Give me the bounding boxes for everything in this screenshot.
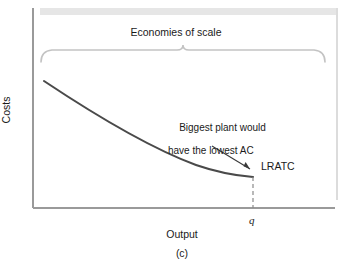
economies-of-scale-label: Economies of scale xyxy=(0,26,352,38)
x-axis-label: Output xyxy=(120,228,244,240)
x-axis-marker-q: q xyxy=(249,214,255,227)
y-axis-label: Costs xyxy=(0,88,12,132)
annotation-line-1: Biggest plant would xyxy=(179,122,266,133)
top-shading-band xyxy=(40,8,337,15)
panel-caption: (c) xyxy=(120,247,244,259)
annotation-callout-text: Biggest plant would have the lowest AC xyxy=(168,110,266,181)
annotation-line-2: have the lowest AC xyxy=(168,145,266,157)
economies-of-scale-figure: Economies of scale Biggest plant would h… xyxy=(0,0,352,270)
economies-of-scale-brace xyxy=(41,45,325,62)
lratc-curve-label: LRATC xyxy=(261,160,295,172)
